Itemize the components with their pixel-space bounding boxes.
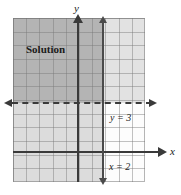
boundary-label-x2: x = 2 <box>109 162 130 172</box>
boundary-line-y3-arrow-left-icon <box>4 99 12 107</box>
boundary-line-x2-arrow-up-icon <box>99 16 107 23</box>
boundary-line-y-equals-3 <box>12 102 152 104</box>
x-axis <box>13 151 161 153</box>
y-axis-arrow-icon <box>73 14 83 23</box>
solution-region-shading <box>13 18 103 103</box>
boundary-line-y3-arrow-right-icon <box>149 99 157 107</box>
upper-right-region-shading <box>103 18 145 103</box>
y-axis-label: y <box>74 3 79 14</box>
boundary-label-y3: y = 3 <box>110 113 131 123</box>
lower-left-region-shading <box>13 103 103 182</box>
inequality-graph-figure: y x Solution y = 3 x = 2 <box>0 0 181 195</box>
x-axis-label: x <box>170 146 175 157</box>
solution-region-label: Solution <box>26 44 65 55</box>
x-axis-arrow-icon <box>158 147 167 157</box>
boundary-line-x2-arrow-down-icon <box>99 178 107 185</box>
